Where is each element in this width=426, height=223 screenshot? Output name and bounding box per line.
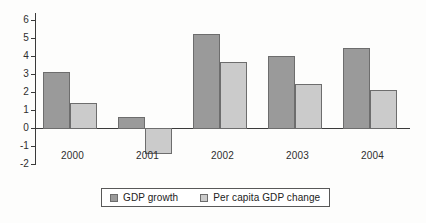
x-tick-label-2004: 2004 — [335, 150, 410, 161]
bars-layer — [0, 0, 426, 175]
bar-2004-series-0 — [343, 48, 370, 129]
legend-swatch-icon — [110, 194, 118, 202]
legend-label: GDP growth — [123, 192, 178, 203]
bar-2001-series-0 — [118, 117, 145, 129]
bar-2000-series-1 — [70, 103, 97, 129]
legend-swatch-icon — [200, 194, 208, 202]
x-tick-label-2001: 2001 — [110, 150, 185, 161]
legend-label: Per capita GDP change — [213, 192, 320, 203]
bar-chart-figure: 6543210-1-2 20002001200220032004 GDP gro… — [0, 0, 426, 223]
bar-2003-series-0 — [268, 56, 295, 129]
plot-area: 6543210-1-2 20002001200220032004 — [0, 0, 426, 175]
bar-2002-series-0 — [193, 34, 220, 129]
bar-2000-series-0 — [43, 72, 70, 129]
bar-2002-series-1 — [220, 62, 247, 129]
chart-legend: GDP growthPer capita GDP change — [101, 188, 330, 207]
legend-entry-1[interactable]: Per capita GDP change — [200, 192, 320, 203]
bar-2003-series-1 — [295, 84, 322, 129]
x-tick-label-2002: 2002 — [185, 150, 260, 161]
x-tick-label-2000: 2000 — [35, 150, 110, 161]
legend-entry-0[interactable]: GDP growth — [110, 192, 178, 203]
x-tick-label-2003: 2003 — [260, 150, 335, 161]
bar-2004-series-1 — [370, 90, 397, 129]
